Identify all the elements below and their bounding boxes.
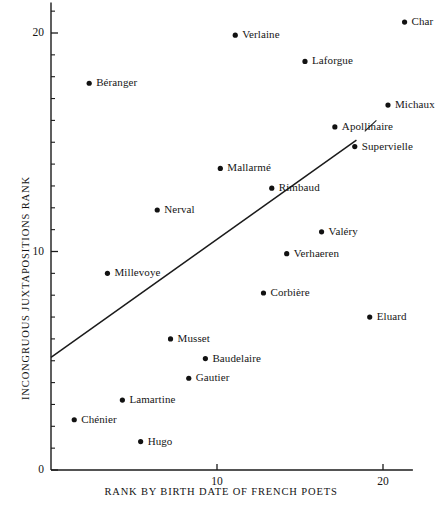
plot-canvas bbox=[0, 0, 442, 508]
data-point bbox=[352, 144, 357, 149]
point-label: Hugo bbox=[148, 436, 173, 447]
point-label: Eluard bbox=[377, 311, 407, 322]
scatter-plot-figure: CharVerlaineLaforgueBérangerMichauxApoll… bbox=[0, 0, 442, 508]
point-label: Char bbox=[412, 16, 434, 27]
data-point bbox=[87, 81, 92, 86]
point-label: Valéry bbox=[329, 226, 358, 237]
data-point bbox=[105, 271, 110, 276]
y-axis-title: INCONGRUOUS JUXTAPOSITIONS RANK bbox=[20, 176, 31, 400]
point-label: Corbière bbox=[270, 287, 309, 298]
point-label: Nerval bbox=[164, 204, 195, 215]
data-point bbox=[319, 229, 324, 234]
axes bbox=[51, 2, 413, 470]
trend-line bbox=[51, 120, 376, 357]
data-point bbox=[385, 103, 390, 108]
y-tick-label: 20 bbox=[24, 26, 44, 38]
x-axis-title: RANK BY BIRTH DATE OF FRENCH POETS bbox=[0, 486, 442, 497]
data-point bbox=[284, 251, 289, 256]
data-point bbox=[72, 417, 77, 422]
data-point bbox=[203, 356, 208, 361]
point-label: Lamartine bbox=[129, 394, 175, 405]
point-label: Rimbaud bbox=[279, 182, 320, 193]
data-point bbox=[269, 186, 274, 191]
point-label: Gautier bbox=[196, 372, 230, 383]
point-label: Laforgue bbox=[312, 55, 353, 66]
point-label: Mallarmé bbox=[227, 162, 271, 173]
data-point bbox=[168, 336, 173, 341]
data-point bbox=[332, 124, 337, 129]
data-point bbox=[233, 33, 238, 38]
point-label: Supervielle bbox=[362, 141, 413, 152]
point-label: Michaux bbox=[395, 99, 435, 110]
point-label: Verlaine bbox=[242, 29, 279, 40]
data-point bbox=[302, 59, 307, 64]
point-label: Apollinaire bbox=[342, 121, 393, 132]
point-label: Chénier bbox=[81, 414, 117, 425]
data-point bbox=[138, 439, 143, 444]
data-point bbox=[155, 207, 160, 212]
point-label: Béranger bbox=[96, 77, 137, 88]
data-point bbox=[261, 290, 266, 295]
data-point bbox=[120, 397, 125, 402]
point-label: Musset bbox=[178, 333, 210, 344]
point-label: Baudelaire bbox=[212, 353, 261, 364]
data-point bbox=[218, 166, 223, 171]
data-point bbox=[186, 376, 191, 381]
point-label: Millevoye bbox=[114, 267, 160, 278]
y-tick-label: 0 bbox=[24, 463, 44, 475]
data-point bbox=[367, 314, 372, 319]
point-label: Verhaeren bbox=[294, 248, 339, 259]
data-point bbox=[402, 19, 407, 24]
